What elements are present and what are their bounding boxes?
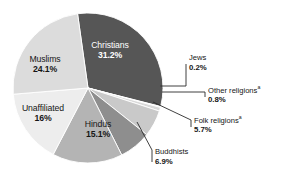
callout-label-other-religions: Other religionsa 0.8%: [208, 84, 260, 105]
callout-label-buddhists-name: Buddhists: [155, 148, 188, 157]
slice-label-christians-name: Christians: [78, 40, 142, 50]
slice-label-unaffiliated: Unaffiliated 16%: [7, 103, 79, 123]
slice-label-unaffiliated-value: 16%: [7, 113, 79, 123]
leader-line-other-religions: [162, 92, 205, 97]
callout-label-folk-religions: Folk religionsa 5.7%: [194, 114, 242, 135]
slice-label-hindus-value: 15.1%: [70, 129, 126, 139]
slice-label-christians-value: 31.2%: [78, 50, 142, 60]
callout-label-other-religions-value: 0.8%: [208, 95, 260, 104]
footnote-marker-other-religions: a: [257, 84, 260, 90]
slice-label-hindus: Hindus 15.1%: [70, 119, 126, 139]
callout-label-buddhists-value: 6.9%: [155, 157, 188, 166]
pie-slice-group: [13, 13, 163, 163]
slice-label-muslims-value: 24.1%: [14, 64, 76, 74]
leader-line-jews: [161, 64, 187, 86]
callout-label-folk-religions-value: 5.7%: [194, 125, 242, 134]
slice-label-hindus-name: Hindus: [70, 119, 126, 129]
pie-chart-figure: Christians 31.2% Muslims 24.1% Unaffilia…: [0, 0, 281, 182]
callout-label-other-religions-name: Other religionsa: [208, 84, 260, 95]
slice-label-unaffiliated-name: Unaffiliated: [7, 103, 79, 113]
callout-label-jews: Jews 0.2%: [189, 54, 207, 72]
callout-label-jews-value: 0.2%: [189, 63, 207, 72]
callout-label-other-religions-text: Other religions: [208, 86, 257, 95]
callout-label-buddhists: Buddhists 6.9%: [155, 148, 188, 166]
slice-label-muslims-name: Muslims: [14, 54, 76, 64]
footnote-marker-folk-religions: a: [239, 114, 242, 120]
slice-label-christians: Christians 31.2%: [78, 40, 142, 60]
callout-label-jews-name: Jews: [189, 54, 207, 63]
callout-label-folk-religions-name: Folk religionsa: [194, 114, 242, 125]
callout-label-folk-religions-text: Folk religions: [194, 116, 239, 125]
slice-label-muslims: Muslims 24.1%: [14, 54, 76, 74]
